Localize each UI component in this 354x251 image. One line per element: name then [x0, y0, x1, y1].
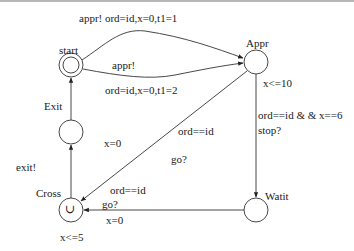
- node-start-inner: [63, 57, 79, 73]
- automaton-graph: [0, 0, 354, 251]
- label-cross: Cross: [36, 187, 61, 199]
- label-start: start: [59, 44, 78, 56]
- invariant-cross: x<=5: [60, 231, 83, 243]
- node-appr: [244, 50, 268, 74]
- edge-label-watit-cross-update: x=0: [106, 214, 123, 226]
- label-watit: Watit: [265, 190, 289, 202]
- edge-label-appr-cross-update: x=0: [104, 137, 121, 149]
- node-exit: [59, 120, 83, 144]
- edge-label-appr-cross-guard: ord==id: [178, 125, 214, 137]
- label-appr: Appr: [246, 37, 269, 49]
- edge-label-appr-watit-sync: stop?: [258, 124, 281, 136]
- edge-label-watit-cross-guard: ord==id: [110, 184, 146, 196]
- edge-label-appr-cross-sync: go?: [171, 153, 187, 165]
- edge-label-start-appr-2-sync: appr!: [112, 59, 135, 71]
- cross-urgent-symbol: ∪: [65, 203, 75, 215]
- edge-label-watit-cross-sync: go?: [102, 198, 118, 210]
- invariant-appr: x<=10: [263, 77, 292, 89]
- edge-label-start-appr-1: appr! ord=id,x=0,t1=1: [79, 12, 177, 24]
- edge-label-cross-exit-sync: exit!: [16, 161, 36, 173]
- edge-start-appr-2: [83, 63, 243, 77]
- edge-label-start-appr-2-update: ord=id,x=0,t1=2: [105, 84, 177, 96]
- label-exit: Exit: [44, 100, 62, 112]
- edge-label-appr-watit-guard: ord==id & & x==6: [258, 109, 342, 121]
- edge-start-appr-1: [82, 31, 243, 60]
